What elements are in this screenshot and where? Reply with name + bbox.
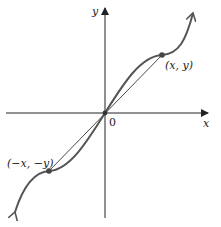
- point-label-x-y: (x, y): [165, 59, 193, 72]
- x-axis-label: x: [203, 117, 210, 130]
- origin-label: 0: [109, 116, 116, 129]
- point-x-y: [159, 52, 165, 58]
- odd-function-diagram: y x 0 (x, y) (−x, −y): [0, 0, 221, 227]
- origin-point: [103, 111, 108, 116]
- y-axis-label: y: [91, 5, 99, 18]
- point-label-neg-x-neg-y: (−x, −y): [7, 157, 53, 170]
